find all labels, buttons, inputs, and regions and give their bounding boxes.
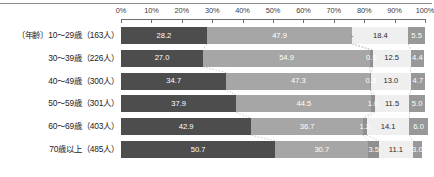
x-axis-tick xyxy=(303,19,304,23)
x-axis-tick xyxy=(273,19,274,23)
bar-segment-value: 1.0 xyxy=(368,100,379,108)
x-axis-tick-label: 60% xyxy=(296,6,311,15)
bar-segment-value: 30.7 xyxy=(314,146,329,154)
bar-segment: 11.1 xyxy=(379,141,413,158)
bar-segment: 5.0 xyxy=(409,95,424,112)
x-axis-tick-label: 90% xyxy=(387,6,402,15)
bar-segment-value: 13.0 xyxy=(384,77,399,85)
x-axis-tick xyxy=(212,19,213,23)
category-label: 30～39歳（226人） xyxy=(1,50,119,67)
top-divider-rule xyxy=(0,3,432,4)
bar-segment-value: 12.5 xyxy=(384,54,399,62)
bar-row: 28.247.9-18.45.5 xyxy=(121,27,425,44)
bar-segment: 6.0 xyxy=(409,118,427,135)
bar-segment-value: 47.3 xyxy=(291,77,306,85)
bar-segment: 11.5 xyxy=(375,95,410,112)
x-axis-tick xyxy=(395,19,396,23)
bar-segment: 47.9 xyxy=(207,27,353,44)
bar-segment-value: 3.0 xyxy=(412,146,423,154)
bar-segment: 30.7 xyxy=(275,141,368,158)
x-axis: 0%10%20%30%40%50%60%70%80%90%100% xyxy=(121,6,425,26)
bar-segment-value: 4.4 xyxy=(412,54,423,62)
category-label: 40～49歳（300人） xyxy=(1,73,119,90)
x-axis-tick xyxy=(364,19,365,23)
bar-segment: 4.7 xyxy=(411,73,425,90)
bar-segment: 54.9 xyxy=(203,50,370,67)
bar-segment: 42.9 xyxy=(121,118,251,135)
category-label: 60～69歳（403人） xyxy=(1,118,119,135)
bar-segment-value: 36.7 xyxy=(300,123,315,131)
category-label: 〔年齢〕10～29歳（163人） xyxy=(1,27,119,44)
x-axis-tick-label: 10% xyxy=(144,6,159,15)
bar-segment-value: 50.7 xyxy=(191,146,206,154)
bar-segment: 50.7 xyxy=(121,141,275,158)
x-axis-tick xyxy=(334,19,335,23)
category-label: 50～59歳（301人） xyxy=(1,95,119,112)
bar-segment: 28.2 xyxy=(121,27,207,44)
x-axis-tick-label: 0% xyxy=(116,6,126,15)
x-axis-tick-label: 50% xyxy=(266,6,281,15)
x-axis-tick-label: 100% xyxy=(416,6,434,15)
bar-segment: 27.0 xyxy=(121,50,203,67)
bar-segment: 14.1 xyxy=(367,118,410,135)
category-label: 70歳以上（485人） xyxy=(1,141,119,158)
bar-segment: 13.0 xyxy=(371,73,411,90)
bar-row: 37.944.51.011.55.0 xyxy=(121,95,425,112)
category-label-column: 〔年齢〕10～29歳（163人）30～39歳（226人）40～49歳（300人）… xyxy=(0,27,119,175)
bar-segment-value: 34.7 xyxy=(166,77,181,85)
bar-segment-value: 44.5 xyxy=(296,100,311,108)
x-axis-tick-label: 40% xyxy=(235,6,250,15)
bar-segment-value: 6.0 xyxy=(413,123,424,131)
bar-segment-value: 47.9 xyxy=(272,32,287,40)
bar-segment-value: 18.4 xyxy=(373,32,388,40)
bar-segment: 34.7 xyxy=(121,73,226,90)
bar-row: 50.730.73.511.13.0 xyxy=(121,141,425,158)
x-axis-tick-label: 30% xyxy=(205,6,220,15)
bar-segment: 44.5 xyxy=(236,95,371,112)
bar-segment: 47.3 xyxy=(226,73,370,90)
bar-segment-value: 3.5 xyxy=(368,146,379,154)
bar-segment-value: 27.0 xyxy=(155,54,170,62)
bar-segment-value: 11.5 xyxy=(385,100,399,108)
bar-segment: 4.4 xyxy=(411,50,424,67)
bar-segment-value: 14.1 xyxy=(381,123,396,131)
x-axis-tick xyxy=(425,19,426,23)
bar-segment-value: 1.2 xyxy=(360,123,371,131)
bar-segment-value: 5.5 xyxy=(411,32,422,40)
bar-segment-value: 0.3 xyxy=(365,77,376,85)
bar-segment-value: 37.9 xyxy=(171,100,186,108)
bar-segment-value: 42.9 xyxy=(179,123,194,131)
bar-segment: 5.5 xyxy=(408,27,425,44)
bar-segment-value: 5.0 xyxy=(412,100,423,108)
bar-segment: 12.5 xyxy=(373,50,411,67)
bar-segment-value: 4.7 xyxy=(413,77,424,85)
bar-row: 27.054.90.912.54.4 xyxy=(121,50,425,67)
x-axis-tick xyxy=(121,19,122,23)
x-axis-tick-label: 80% xyxy=(357,6,372,15)
x-axis-tick xyxy=(243,19,244,23)
bar-segment-value: 11.1 xyxy=(389,146,403,154)
bar-segment: 3.0 xyxy=(413,141,422,158)
x-axis-tick-label: 70% xyxy=(327,6,342,15)
bar-segment-value: 0.9 xyxy=(366,54,377,62)
bar-segment-value: 54.9 xyxy=(279,54,294,62)
x-axis-tick xyxy=(182,19,183,23)
bar-row: 42.936.71.214.16.0 xyxy=(121,118,425,135)
bar-segment: 3.5 xyxy=(368,141,379,158)
x-axis-tick-label: 20% xyxy=(175,6,190,15)
plot-area: 28.247.9-18.45.527.054.90.912.54.434.747… xyxy=(121,27,425,175)
bar-segment: 36.7 xyxy=(251,118,363,135)
bar-segment: 18.4 xyxy=(352,27,408,44)
x-axis-tick xyxy=(151,19,152,23)
bar-segment-value: 28.2 xyxy=(156,32,171,40)
bar-segment-value: - xyxy=(351,32,354,40)
bar-segment: 37.9 xyxy=(121,95,236,112)
bar-row: 34.747.30.313.04.7 xyxy=(121,73,425,90)
